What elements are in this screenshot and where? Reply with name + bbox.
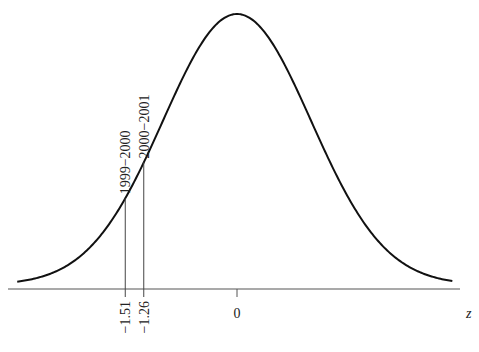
normal-curve-chart: 1999−2000−1.512000−2001−1.26 0 z — [0, 0, 479, 352]
tick-label-zero: 0 — [234, 306, 241, 321]
marker-label-0: 1999−2000 — [118, 130, 133, 194]
normal-density-curve — [17, 14, 452, 282]
tick-label-1: −1.26 — [137, 301, 152, 333]
tick-label-0: −1.51 — [118, 301, 133, 333]
marker-label-1: 2000−2001 — [137, 95, 152, 159]
x-axis-label: z — [465, 306, 472, 321]
